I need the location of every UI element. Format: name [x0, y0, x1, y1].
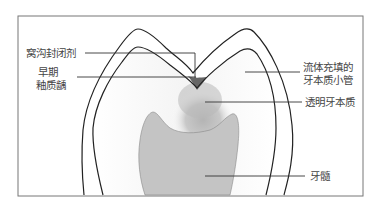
early-caries-region — [178, 82, 222, 118]
label-tubules-line2: 牙本质小管 — [303, 74, 353, 87]
label-early-caries-line2: 釉质龋 — [36, 79, 66, 92]
label-sclerotic-dentin: 透明牙本质 — [305, 96, 355, 109]
label-fissure-sealant: 窝沟封闭剂 — [26, 47, 76, 60]
label-early-caries-line1: 早期 — [38, 66, 58, 79]
tooth-cross-section-diagram: 窝沟封闭剂 早期 釉质龋 流体充填的 牙本质小管 透明牙本质 牙髓 — [0, 0, 381, 210]
label-tubules-line1: 流体充填的 — [303, 61, 353, 74]
label-pulp: 牙髓 — [310, 170, 330, 183]
